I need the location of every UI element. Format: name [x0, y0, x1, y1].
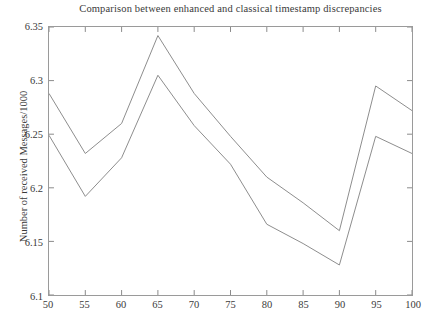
x-tick-label: 65 — [152, 299, 163, 310]
x-axis-tick-labels: 50556065707580859095100 — [48, 299, 413, 315]
x-tick-label: 90 — [335, 299, 346, 310]
x-tick-label: 70 — [189, 299, 200, 310]
y-tick-label: 6.35 — [25, 21, 43, 32]
x-tick-label: 80 — [262, 299, 273, 310]
x-tick-label: 75 — [225, 299, 236, 310]
y-tick-label: 6.3 — [30, 75, 43, 86]
x-tick-label: 55 — [79, 299, 90, 310]
y-axis-tick-labels: 6.16.156.26.256.36.35 — [0, 26, 43, 296]
y-tick-label: 6.15 — [25, 237, 43, 248]
y-tick-label: 6.2 — [30, 183, 43, 194]
y-tick-label: 6.1 — [30, 291, 43, 302]
x-tick-label: 95 — [371, 299, 382, 310]
x-tick-label: 85 — [298, 299, 309, 310]
chart-figure: Comparison between enhanced and classica… — [0, 0, 433, 326]
plot-area — [48, 26, 413, 296]
series-line-enhanced — [49, 75, 412, 265]
x-tick-label: 60 — [116, 299, 127, 310]
x-tick-label: 100 — [405, 299, 421, 310]
chart-title: Comparison between enhanced and classica… — [48, 3, 413, 14]
y-tick-label: 6.25 — [25, 129, 43, 140]
plot-svg — [49, 27, 412, 295]
x-tick-label: 50 — [43, 299, 54, 310]
